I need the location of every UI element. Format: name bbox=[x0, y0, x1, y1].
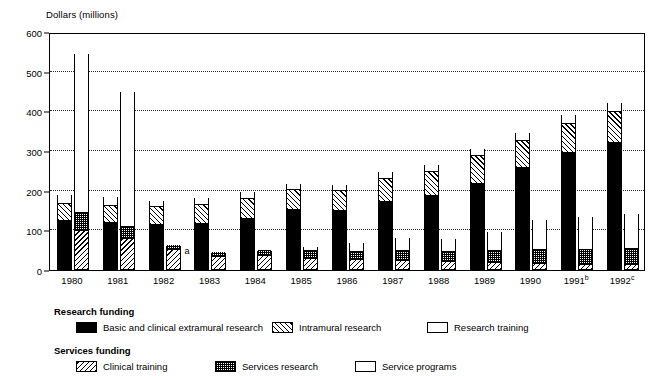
bar-segment-clintrain-1986 bbox=[350, 260, 363, 269]
bar-segment-extramural-1984 bbox=[241, 219, 254, 269]
chart-area: Dollars (millions) a 0100200300400500600… bbox=[0, 0, 665, 300]
bar-segment-svcresearch-1982 bbox=[167, 245, 180, 250]
bar-segment-training-1990 bbox=[516, 132, 529, 141]
y-tick-label-200: 200 bbox=[2, 186, 42, 197]
bar-segment-extramural-1980 bbox=[58, 221, 71, 269]
y-axis-title: Dollars (millions) bbox=[46, 9, 118, 20]
bar-segment-clintrain-1983 bbox=[212, 257, 225, 269]
bar-services-1986[interactable] bbox=[349, 243, 364, 270]
bar-segment-svcresearch-1988 bbox=[442, 252, 455, 262]
bar-segment-intramural-1991 bbox=[562, 124, 575, 153]
bar-segment-training-1984 bbox=[241, 191, 254, 199]
x-tick-label-1986: 1986 bbox=[336, 275, 357, 286]
bar-services-1985[interactable] bbox=[303, 247, 318, 270]
y-tick-mark-600 bbox=[44, 33, 49, 34]
bar-research-1987[interactable] bbox=[378, 172, 393, 270]
x-tick-label-1992: 1992c bbox=[610, 275, 635, 286]
bar-services-1984[interactable] bbox=[257, 251, 272, 270]
bar-research-1984[interactable] bbox=[240, 192, 255, 270]
bar-segment-svcprograms-1986 bbox=[350, 242, 363, 252]
bar-research-1982[interactable] bbox=[149, 201, 164, 270]
y-tick-mark-400 bbox=[44, 112, 49, 113]
bar-segment-extramural-1981 bbox=[104, 223, 117, 269]
bar-services-1987[interactable] bbox=[395, 238, 410, 270]
bar-research-1983[interactable] bbox=[194, 198, 209, 270]
bar-segment-clintrain-1990 bbox=[533, 264, 546, 269]
bar-segment-svcresearch-1992 bbox=[625, 249, 638, 265]
y-tick-mark-100 bbox=[44, 231, 49, 232]
bar-segment-intramural-1980 bbox=[58, 204, 71, 222]
bar-segment-svcresearch-1987 bbox=[396, 251, 409, 261]
bar-segment-training-1981 bbox=[104, 196, 117, 206]
bar-segment-intramural-1990 bbox=[516, 141, 529, 168]
bar-segment-training-1985 bbox=[287, 183, 300, 190]
legend-entry-service-programs: Service programs bbox=[355, 361, 456, 372]
bar-segment-training-1992 bbox=[608, 102, 621, 112]
bar-segment-training-1987 bbox=[379, 171, 392, 179]
bar-services-1980[interactable] bbox=[74, 54, 89, 270]
y-tick-label-400: 400 bbox=[2, 107, 42, 118]
bar-segment-svcprograms-1981 bbox=[121, 91, 134, 228]
bar-segment-clintrain-1988 bbox=[442, 262, 455, 269]
footnote-marker-a: a bbox=[185, 246, 190, 256]
x-tick-label-1984: 1984 bbox=[245, 275, 266, 286]
bar-services-1982[interactable] bbox=[166, 246, 181, 270]
bars-container: a bbox=[50, 34, 644, 270]
y-tick-label-300: 300 bbox=[2, 147, 42, 158]
bar-segment-svcprograms-1987 bbox=[396, 237, 409, 251]
bar-segment-intramural-1981 bbox=[104, 206, 117, 224]
bar-segment-intramural-1988 bbox=[425, 172, 438, 196]
bar-research-1990[interactable] bbox=[515, 133, 530, 270]
bar-segment-clintrain-1982 bbox=[167, 250, 180, 269]
bar-segment-clintrain-1989 bbox=[488, 263, 501, 269]
y-tick-mark-200 bbox=[44, 191, 49, 192]
bar-segment-svcresearch-1980 bbox=[75, 213, 88, 231]
bar-segment-clintrain-1992 bbox=[625, 265, 638, 269]
swatch-services-research-icon bbox=[215, 361, 236, 372]
bar-services-1989[interactable] bbox=[487, 232, 502, 270]
bar-services-1990[interactable] bbox=[532, 220, 547, 270]
swatch-research-training-icon bbox=[427, 322, 448, 333]
bar-segment-clintrain-1980 bbox=[75, 231, 88, 269]
bar-segment-intramural-1983 bbox=[195, 205, 208, 224]
bar-segment-extramural-1987 bbox=[379, 202, 392, 269]
bar-research-1992[interactable] bbox=[607, 103, 622, 270]
bar-services-1983[interactable] bbox=[211, 253, 226, 270]
bar-research-1989[interactable] bbox=[470, 149, 485, 270]
plot-area: a bbox=[49, 33, 645, 271]
bar-research-1980[interactable] bbox=[57, 195, 72, 270]
x-tick-label-1983: 1983 bbox=[199, 275, 220, 286]
legend-label-extramural: Basic and clinical extramural research bbox=[103, 322, 263, 333]
bar-segment-training-1989 bbox=[471, 148, 484, 156]
bar-research-1986[interactable] bbox=[332, 185, 347, 270]
bar-services-1988[interactable] bbox=[441, 239, 456, 270]
chart-legend: Research funding Basic and clinical extr… bbox=[0, 300, 665, 376]
legend-entry-extramural: Basic and clinical extramural research bbox=[76, 322, 263, 333]
bar-segment-intramural-1985 bbox=[287, 190, 300, 210]
x-tick-label-1990: 1990 bbox=[520, 275, 541, 286]
x-tick-label-1981: 1981 bbox=[107, 275, 128, 286]
bar-segment-clintrain-1985 bbox=[304, 259, 317, 269]
bar-research-1991[interactable] bbox=[561, 115, 576, 270]
y-tick-mark-500 bbox=[44, 72, 49, 73]
bar-services-1992[interactable] bbox=[624, 214, 639, 270]
x-tick-label-1985: 1985 bbox=[291, 275, 312, 286]
bar-segment-svcprograms-1992 bbox=[625, 213, 638, 249]
bar-segment-intramural-1982 bbox=[150, 207, 163, 225]
bar-segment-intramural-1987 bbox=[379, 179, 392, 202]
legend-heading-services: Services funding bbox=[54, 345, 131, 356]
bar-research-1988[interactable] bbox=[424, 165, 439, 270]
y-tick-label-500: 500 bbox=[2, 67, 42, 78]
bar-services-1991[interactable] bbox=[578, 217, 593, 270]
bar-segment-svcprograms-1985 bbox=[304, 246, 317, 251]
bar-segment-svcresearch-1989 bbox=[488, 251, 501, 263]
legend-heading-research: Research funding bbox=[54, 306, 134, 317]
swatch-extramural-icon bbox=[76, 322, 97, 333]
bar-research-1981[interactable] bbox=[103, 197, 118, 270]
bar-segment-training-1991 bbox=[562, 114, 575, 124]
bar-services-1981[interactable] bbox=[120, 92, 135, 271]
bar-segment-clintrain-1984 bbox=[258, 256, 271, 269]
bar-research-1985[interactable] bbox=[286, 184, 301, 270]
legend-label-service-programs: Service programs bbox=[382, 361, 456, 372]
bar-segment-intramural-1984 bbox=[241, 199, 254, 219]
